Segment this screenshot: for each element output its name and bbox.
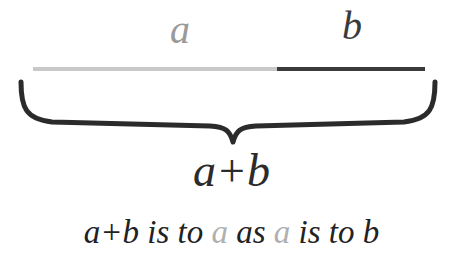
caption: a+b is to a as a is to b	[0, 214, 463, 250]
caption-part-5: is to b	[290, 214, 379, 250]
sum-label: a+b	[0, 148, 463, 194]
caption-part-1: a+b is to	[84, 214, 212, 250]
segment-label-a: a	[150, 10, 210, 50]
caption-part-3: as	[228, 214, 274, 250]
caption-gray-a-second: a	[274, 214, 291, 250]
caption-gray-a-first: a	[211, 214, 228, 250]
segment-line	[33, 67, 425, 71]
segment-a-bar	[33, 67, 277, 71]
segment-b-bar	[277, 67, 425, 71]
segment-label-b: b	[322, 6, 382, 46]
golden-ratio-diagram: a b a+b a+b is to a as a is to b	[0, 0, 463, 269]
underbrace-icon	[0, 78, 463, 146]
